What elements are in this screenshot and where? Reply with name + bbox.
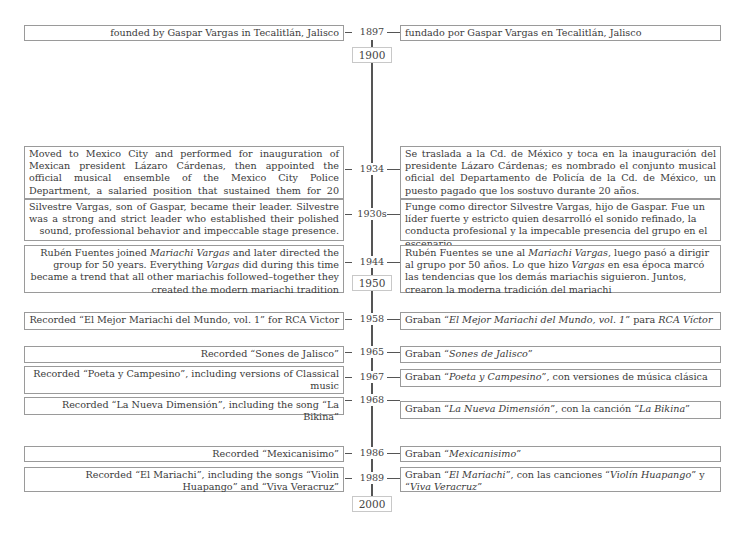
event-1944-es: Rubén Fuentes se une al Mariachi Vargas,…	[400, 245, 721, 293]
text: ”	[477, 481, 482, 492]
connector	[387, 169, 400, 170]
song-title: La Bikina	[639, 403, 685, 414]
group-name: Mariachi Vargas	[528, 247, 608, 258]
text: ”, con la canción “	[550, 403, 639, 414]
text: Graban “	[405, 371, 449, 382]
connector	[387, 32, 400, 33]
connector	[387, 478, 400, 479]
song-title: Viva Veracruz	[410, 481, 477, 492]
event-1968-es: Graban “La Nueva Dimensión”, con la canc…	[400, 401, 721, 419]
year-label-1965: 1965	[352, 346, 392, 358]
song-title: Violín Huapango	[610, 469, 691, 480]
year-label-1958: 1958	[352, 313, 392, 325]
connector	[387, 319, 400, 320]
text: Graban “	[405, 314, 449, 325]
connector	[387, 262, 400, 263]
connector	[387, 400, 400, 401]
album-title: El Mejor Mariachi del Mundo, vol. 1	[449, 314, 625, 325]
album-title: Mexicanisimo	[449, 448, 516, 459]
event-1967-es: Graban “Poeta y Campesino”, con versione…	[400, 369, 721, 387]
year-label-1934: 1934	[352, 163, 392, 175]
event-1930s-en: Silvestre Vargas, son of Gaspar, became …	[24, 199, 344, 241]
connector	[387, 352, 400, 353]
event-1986-en: Recorded “Mexicanisimo”	[24, 446, 344, 462]
decade-marker-1950: 1950	[352, 275, 392, 291]
text: ”, con las canciones “	[506, 469, 610, 480]
connector	[387, 214, 400, 215]
timeline-spine	[371, 40, 373, 505]
event-1897-es: fundado por Gaspar Vargas en Tecalitlán,…	[400, 25, 721, 41]
event-1989-es: Graban “El Mariachi”, con las canciones …	[400, 467, 721, 492]
text: Graban “	[405, 448, 449, 459]
event-1968-en: Recorded “La Nueva Dimensión”, including…	[24, 397, 344, 415]
year-label-1944: 1944	[352, 256, 392, 268]
year-label-1968: 1968	[352, 394, 392, 406]
event-1965-en: Recorded “Sones de Jalisco”	[24, 346, 344, 363]
group-name: Mariachi Vargas	[150, 247, 230, 258]
text: ”	[516, 448, 521, 459]
album-title: La Nueva Dimensión	[449, 403, 550, 414]
year-label-1897: 1897	[352, 26, 392, 38]
event-1897-en: founded by Gaspar Vargas in Tecalitlán, …	[24, 25, 344, 41]
text: ”	[528, 348, 533, 359]
year-label-1967: 1967	[352, 371, 392, 383]
year-label-1989: 1989	[352, 472, 392, 484]
text: ” para	[625, 314, 658, 325]
event-1967-en: Recorded “Poeta y Campesino”, including …	[24, 366, 344, 394]
connector	[387, 453, 400, 454]
connector	[387, 377, 400, 378]
text: ”, con versiones de música clásica	[542, 371, 708, 382]
event-1944-en: Rubén Fuentes joined Mariachi Vargas and…	[24, 245, 344, 293]
album-title: El Mariachi	[449, 469, 506, 480]
decade-marker-1900: 1900	[352, 47, 392, 63]
event-1934-en: Moved to Mexico City and performed for i…	[24, 146, 344, 199]
decade-marker-2000: 2000	[352, 496, 392, 512]
group-name: Vargas	[572, 259, 605, 270]
text: Graban “	[405, 348, 449, 359]
group-name: Vargas	[206, 259, 239, 270]
event-1930s-es: Funge como director Silvestre Vargas, hi…	[400, 199, 721, 241]
event-1958-en: Recorded “El Mejor Mariachi del Mundo, v…	[24, 312, 344, 330]
event-1965-es: Graban “Sones de Jalisco”	[400, 346, 721, 363]
text: Rubén Fuentes se une al	[405, 247, 528, 258]
text: Rubén Fuentes joined	[40, 247, 150, 258]
text: ”	[685, 403, 690, 414]
label-name: RCA Víctor	[658, 314, 712, 325]
event-1986-es: Graban “Mexicanisimo”	[400, 446, 721, 462]
year-label-1986: 1986	[352, 447, 392, 459]
text: Graban “	[405, 469, 449, 480]
event-1989-en: Recorded “El Mariachi”, including the so…	[24, 467, 344, 492]
event-1958-es: Graban “El Mejor Mariachi del Mundo, vol…	[400, 312, 721, 330]
album-title: Sones de Jalisco	[449, 348, 528, 359]
event-1934-es: Se traslada a la Cd. de México y toca en…	[400, 146, 721, 199]
album-title: Poeta y Campesino	[449, 371, 542, 382]
year-label-1930s: 1930s	[352, 208, 392, 220]
text: Graban “	[405, 403, 449, 414]
